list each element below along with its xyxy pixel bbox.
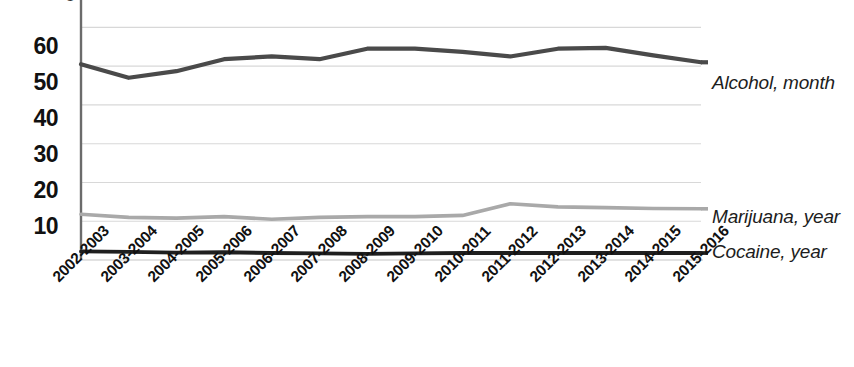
series-label-alcohol: Alcohol, month	[712, 72, 835, 94]
series-label-marijuana: Marijuana, year	[712, 206, 840, 228]
series-line-alcohol	[81, 48, 701, 78]
series-label-cocaine: Cocaine, year	[712, 241, 827, 263]
plot-area	[0, 0, 854, 367]
series-line-marijuana	[81, 204, 701, 220]
line-chart: 0 60 50 40 30 20 10 2002-20032003-200420…	[0, 0, 854, 367]
legend-swatches	[701, 62, 708, 253]
gridlines	[81, 27, 701, 221]
series-lines	[81, 48, 701, 254]
